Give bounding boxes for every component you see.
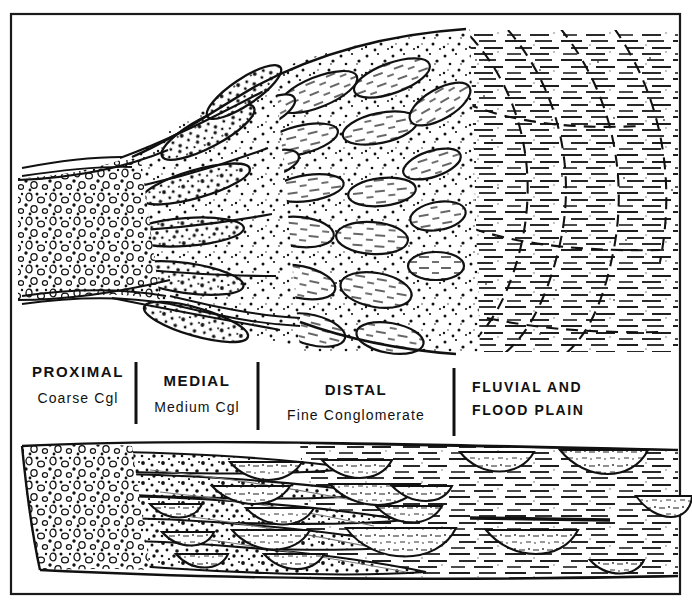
figure-root: PROXIMAL Coarse Cgl MEDIAL Medium Cgl DI… [0, 0, 692, 608]
zone-title-medial: MEDIAL [163, 372, 230, 389]
zone-title-fluvial: FLUVIAL AND [472, 379, 582, 395]
alluvial-fan-diagram: PROXIMAL Coarse Cgl MEDIAL Medium Cgl DI… [0, 0, 692, 608]
xsec-marker-bed [470, 518, 610, 520]
zone-title-distal: DISTAL [325, 381, 388, 398]
zone-subtitle-medial: Medium Cgl [154, 399, 240, 415]
zone-title-proximal: PROXIMAL [32, 363, 124, 380]
cross-section-panel [16, 440, 692, 590]
zone-subtitle-fluvial: FLOOD PLAIN [472, 402, 584, 418]
zone-subtitle-proximal: Coarse Cgl [37, 390, 118, 406]
zone-subtitle-distal: Fine Conglomerate [287, 407, 425, 423]
